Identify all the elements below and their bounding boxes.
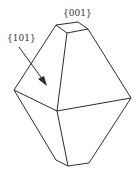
top-facet-001: [56, 22, 88, 33]
arrow-icon: [19, 47, 47, 86]
label-101: {101}: [7, 34, 36, 43]
crystal-diagram: [0, 0, 138, 175]
label-001: {001}: [63, 9, 92, 18]
